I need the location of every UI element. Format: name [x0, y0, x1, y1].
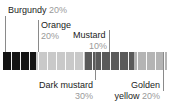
leader-line-dark-mustard [95, 52, 96, 80]
callout-mustard-label: Mustard [73, 30, 106, 40]
callout-golden-yellow-line2: yellow 20% [101, 91, 160, 101]
leader-line-burgundy [5, 16, 6, 52]
callout-orange-percent-wrap: 20% [41, 31, 59, 41]
callout-orange-label-wrap: Orange [41, 20, 71, 30]
callout-dark-mustard-label-wrap: Dark mustard [33, 80, 93, 90]
callout-mustard-percent: 10% [89, 41, 107, 51]
bar-segment-burgundy [3, 52, 36, 70]
callout-golden-yellow-percent: 20% [142, 91, 160, 101]
callout-burgundy-percent: 20% [49, 5, 67, 15]
callout-dark-mustard-label: Dark mustard [39, 80, 93, 90]
leader-line-orange [38, 20, 39, 52]
callout-mustard-label-wrap: Mustard [73, 30, 106, 40]
bar-segment-orange [36, 52, 69, 70]
callout-golden-yellow-label-part2: yellow [114, 91, 142, 101]
callout-mustard-percent-wrap: 10% [73, 41, 107, 51]
callout-dark-mustard-percent-wrap: 30% [33, 91, 93, 101]
leader-line-mustard [109, 30, 110, 52]
bar-segment-mustard [69, 52, 85, 70]
bar-segment-dark-mustard [85, 52, 134, 70]
leader-line-golden-yellow [163, 52, 164, 91]
callout-golden-yellow-line1: Golden [101, 80, 160, 90]
callout-burgundy-label: Burgundy [8, 5, 47, 15]
callout-dark-mustard-percent: 30% [75, 91, 93, 101]
stacked-proportion-bar [3, 52, 167, 70]
callout-golden-yellow-label-part1: Golden [131, 80, 160, 90]
callout-burgundy: Burgundy 20% [8, 5, 67, 15]
palette-proportion-chart: Burgundy 20% Orange 20% Mustard 10% Dark… [0, 0, 170, 103]
callout-orange-label: Orange [41, 20, 71, 30]
callout-orange-percent: 20% [41, 31, 59, 41]
